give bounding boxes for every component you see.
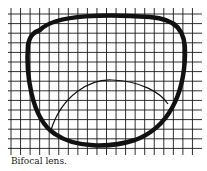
figure-caption: Bifocal lens. [11, 156, 67, 166]
bifocal-lens-diagram [0, 0, 207, 171]
